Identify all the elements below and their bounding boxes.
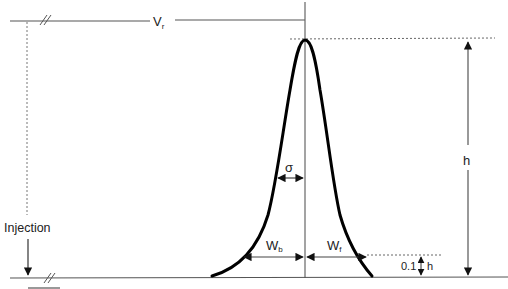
peak-top-dashed-line — [290, 38, 495, 39]
back-width-label: Wb — [266, 238, 283, 254]
front-width-label: Wf — [327, 238, 342, 254]
baseline — [10, 277, 508, 278]
tenth-height-suffix-label: h — [427, 260, 433, 272]
chromatographic-peak — [212, 40, 372, 276]
sigma-label: σ — [285, 160, 293, 175]
injection-label: Injection — [4, 221, 51, 235]
break-mark-top-icon — [40, 15, 51, 25]
tenth-height-prefix-label: 0.1 — [401, 260, 416, 272]
vr-label: Vr — [153, 14, 165, 31]
height-label: h — [463, 153, 470, 168]
peak-diagram: Vr Injection h σ Wb Wf 0.1 h — [0, 0, 508, 289]
